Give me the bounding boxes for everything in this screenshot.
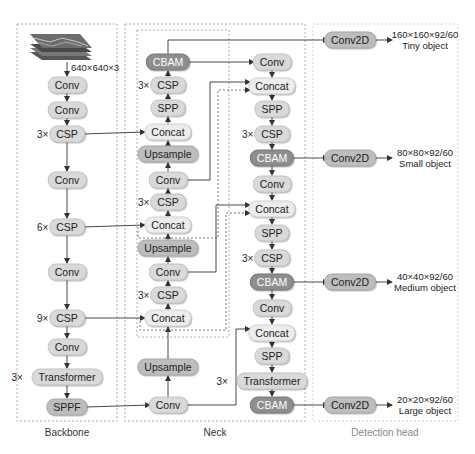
neck-left-upsample-node: Upsample [137,359,198,376]
head-conv2d-node: Conv2D [324,150,376,167]
neck-left-conv-node: Conv [149,264,188,281]
neck-right-concat-node: Concat [248,78,295,95]
output-label: 80×80×92/60Small object [397,147,453,169]
backbone-conv-node: Conv [48,264,87,281]
neck-left-concat-node: Concat [144,124,191,141]
image-stack-icon [30,34,92,60]
head-section-label: Detection head [351,427,418,438]
repeat-multiplier: 3× [216,376,227,387]
repeat-multiplier: 3× [242,129,253,140]
neck-left-spp-node: SPP [150,100,185,117]
neck-right-spp-node: SPP [254,101,289,118]
neck-right-csp-node: CSP [254,250,290,267]
backbone-conv-node: Conv [48,172,87,189]
neck-left-concat-node: Concat [144,310,191,327]
neck-right-csp-node: CSP [254,126,290,143]
repeat-multiplier: 3× [242,253,253,264]
neck-left-concat-node: Concat [144,217,191,234]
neck-left-csp-node: CSP [150,194,186,211]
neck-right-conv-node: Conv [253,54,292,71]
repeat-multiplier: 3× [11,372,22,383]
neck-left-upsample-node: Upsample [137,240,198,257]
yolo-architecture-diagram: 640×640×3 ConvConvCSP3×ConvCSP6×ConvCSP9… [0,0,475,454]
neck-right-spp-node: SPP [254,348,289,365]
repeat-multiplier: 3× [138,290,149,301]
head-conv2d-node: Conv2D [324,274,376,291]
head-conv2d-node: Conv2D [324,397,376,414]
backbone-csp-node: CSP [49,310,85,327]
backbone-transformer-node: Transformer [32,369,103,386]
input-size-label: 640×640×3 [71,62,119,73]
backbone-sppf-node: SPPF [46,399,87,416]
neck-left-upsample-node: Upsample [137,146,198,163]
backbone-conv-node: Conv [48,77,87,94]
output-label: 40×40×92/60Medium object [394,271,456,293]
neck-left-conv-node: Conv [149,172,188,189]
neck-left-csp-node: CSP [150,77,186,94]
repeat-multiplier: 9× [37,313,48,324]
neck-right-conv-node: Conv [253,300,292,317]
neck-right-transformer-node: Transformer [237,373,308,390]
neck-right-conv-node: Conv [253,176,292,193]
head-box [313,24,458,421]
neck-right-concat-node: Concat [248,201,295,218]
repeat-multiplier: 3× [37,129,48,140]
neck-right-concat-node: Concat [248,325,295,342]
backbone-conv-node: Conv [48,339,87,356]
backbone-csp-node: CSP [49,219,85,236]
repeat-multiplier: 6× [37,222,48,233]
neck-right-cbam-node: CBAM [250,274,294,291]
backbone-conv-node: Conv [48,102,87,119]
neck-left-conv-node: Conv [149,397,188,414]
neck-left-cbam-node: CBAM [146,54,190,71]
neck-section-label: Neck [204,427,227,438]
repeat-multiplier: 3× [138,197,149,208]
backbone-csp-node: CSP [49,126,85,143]
neck-left-csp-node: CSP [150,287,186,304]
neck-right-cbam-node: CBAM [250,397,294,414]
backbone-section-label: Backbone [45,427,89,438]
output-label: 20×20×92/60Large object [397,394,453,416]
output-label: 160×160×92/60Tiny object [392,29,459,51]
neck-right-cbam-node: CBAM [250,150,294,167]
head-conv2d-node: Conv2D [324,32,376,49]
repeat-multiplier: 3× [138,80,149,91]
neck-right-spp-node: SPP [254,225,289,242]
